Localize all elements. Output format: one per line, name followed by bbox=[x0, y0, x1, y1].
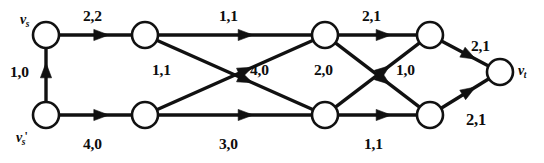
edge-label-b3-b4: 1,1 bbox=[364, 136, 383, 152]
edge-label-vs-t2: 2,2 bbox=[83, 8, 102, 24]
arrowhead-icon bbox=[238, 29, 253, 40]
arrowhead-icon bbox=[460, 87, 476, 100]
arrowhead-icon bbox=[238, 109, 253, 120]
edge-vsp-to-b2 bbox=[60, 109, 132, 120]
graph-node-t4[interactable] bbox=[417, 22, 443, 48]
node-label-vt: vt bbox=[518, 64, 526, 81]
edge-label-b2-b3: 3,0 bbox=[219, 136, 238, 152]
edge-t2-to-t3 bbox=[159, 29, 312, 40]
graph-node-b3[interactable] bbox=[312, 102, 338, 128]
graph-node-t2[interactable] bbox=[132, 22, 158, 48]
edge-b2-to-b3 bbox=[159, 109, 312, 120]
edge-label-t3-t4: 2,1 bbox=[362, 8, 381, 24]
arrowhead-icon bbox=[40, 63, 51, 78]
node-label-prime: ' bbox=[24, 129, 27, 143]
edge-label-t3-b4: 2,0 bbox=[314, 62, 333, 78]
arrowhead-icon bbox=[376, 29, 391, 40]
edge-label-b4-vt: 2,1 bbox=[466, 112, 486, 129]
node-label-vsp: vs' bbox=[16, 130, 28, 147]
graph-node-vsp[interactable] bbox=[33, 102, 59, 128]
network-flow-diagram: 1,02,21,11,14,04,03,02,12,01,01,12,12,1v… bbox=[0, 0, 544, 163]
node-label-vs: vs bbox=[20, 13, 29, 30]
graph-node-b2[interactable] bbox=[132, 102, 158, 128]
edge-b4-to-vt bbox=[442, 79, 489, 108]
graph-node-vt[interactable] bbox=[487, 59, 513, 85]
edge-vsp-to-vs bbox=[40, 49, 51, 102]
edge-b3-to-b4 bbox=[339, 109, 417, 120]
edge-label-b2-t3: 4,0 bbox=[250, 62, 269, 78]
edge-label-b3-t4: 1,0 bbox=[396, 62, 415, 78]
node-label-subscript: t bbox=[524, 70, 527, 80]
edge-label-t4-vt: 2,1 bbox=[471, 38, 490, 54]
edge-vs-to-t2 bbox=[60, 29, 132, 40]
edge-label-vsp-b2: 4,0 bbox=[83, 136, 102, 152]
nodes-layer bbox=[33, 22, 513, 128]
graph-canvas bbox=[0, 0, 544, 163]
edge-label-t2-t3: 1,1 bbox=[219, 8, 238, 24]
edge-label-t2-b3: 1,1 bbox=[152, 62, 171, 78]
graph-node-b4[interactable] bbox=[417, 102, 443, 128]
arrowhead-icon bbox=[94, 29, 109, 40]
arrowhead-icon bbox=[376, 109, 391, 120]
edge-t3-to-t4 bbox=[339, 29, 417, 40]
node-label-subscript: s bbox=[26, 19, 30, 29]
graph-node-t3[interactable] bbox=[312, 22, 338, 48]
arrowhead-icon bbox=[94, 109, 109, 120]
edge-label-vsp-vs: 1,0 bbox=[10, 64, 29, 80]
graph-node-vs[interactable] bbox=[33, 22, 59, 48]
